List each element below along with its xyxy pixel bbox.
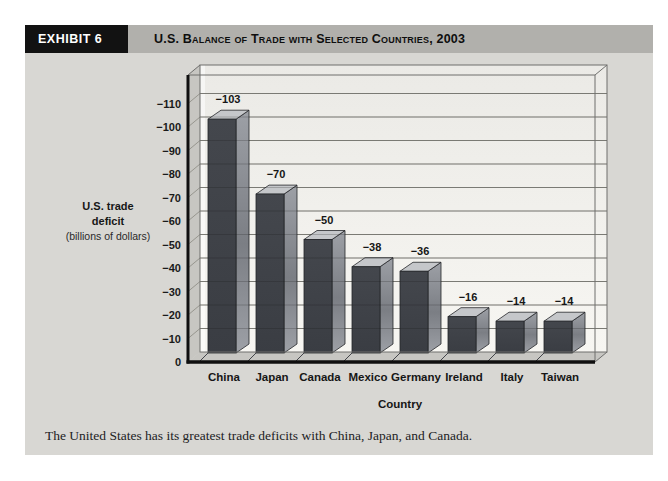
x-category-label: Canada xyxy=(299,371,341,383)
x-category-label: China xyxy=(208,371,241,383)
x-category-label: Mexico xyxy=(349,371,388,383)
bar-front-face xyxy=(448,317,476,353)
y-axis-title-line: deficit xyxy=(92,215,125,227)
chart-area: 0−10−20−30−40−50−60−70−80−90−100−110−103… xyxy=(25,60,653,415)
x-category-label: Japan xyxy=(255,371,288,383)
x-category-label: Italy xyxy=(500,371,524,383)
bar-side-face xyxy=(284,185,297,353)
bar-front-face xyxy=(496,321,524,353)
bar-value-label: −16 xyxy=(459,291,478,303)
y-axis-title-line: U.S. trade xyxy=(82,200,133,212)
exhibit-number-badge: EXHIBIT 6 xyxy=(25,25,128,53)
bar-value-label: −36 xyxy=(411,245,430,257)
x-category-label: Germany xyxy=(391,371,441,383)
bar-value-label: −103 xyxy=(216,93,241,105)
page: { "header": { "exhibit_label": "EXHIBIT … xyxy=(0,0,668,481)
bar-front-face xyxy=(544,321,572,353)
exhibit-header: EXHIBIT 6 U.S. Balance of Trade with Sel… xyxy=(25,25,653,53)
back-wall-highlight xyxy=(200,65,205,352)
bar-side-face xyxy=(236,110,249,353)
bar-value-label: −70 xyxy=(267,168,286,180)
y-tick-label: −70 xyxy=(162,192,181,204)
y-tick-label: −30 xyxy=(162,286,181,298)
y-tick-label: −110 xyxy=(157,98,181,110)
bar-front-face xyxy=(352,267,380,353)
figure-caption: The United States has its greatest trade… xyxy=(45,428,645,444)
chart-title: U.S. Balance of Trade with Selected Coun… xyxy=(128,25,653,53)
bar-front-face xyxy=(400,271,428,353)
y-tick-label: 0 xyxy=(175,356,181,368)
bar-value-label: −38 xyxy=(363,241,382,253)
y-tick-label: −80 xyxy=(162,168,181,180)
y-tick-label: −40 xyxy=(162,262,181,274)
bar-value-label: −50 xyxy=(315,214,334,226)
y-tick-label: −100 xyxy=(156,121,181,133)
bar-side-face xyxy=(332,231,345,354)
bar-front-face xyxy=(304,240,332,354)
y-tick-label: −20 xyxy=(162,309,181,321)
exhibit-panel: EXHIBIT 6 U.S. Balance of Trade with Sel… xyxy=(25,25,653,455)
chart-left-wall xyxy=(188,65,200,362)
bar-side-face xyxy=(428,262,441,353)
y-tick-label: −10 xyxy=(162,333,181,345)
bar-front-face xyxy=(256,194,284,353)
y-axis-title-line: (billions of dollars) xyxy=(66,230,151,242)
y-tick-label: −50 xyxy=(162,239,181,251)
trade-deficit-chart: 0−10−20−30−40−50−60−70−80−90−100−110−103… xyxy=(25,60,653,415)
bar-front-face xyxy=(208,119,236,353)
x-axis-title: Country xyxy=(378,398,423,410)
y-tick-label: −60 xyxy=(162,215,181,227)
x-category-label: Ireland xyxy=(445,371,483,383)
y-tick-label: −90 xyxy=(162,145,181,157)
x-category-label: Taiwan xyxy=(541,371,579,383)
